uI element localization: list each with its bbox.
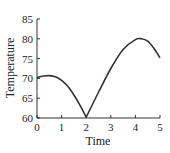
- y-tick-label: 65: [22, 92, 34, 104]
- x-tick-label: 2: [83, 121, 89, 133]
- x-tick-label: 1: [59, 121, 65, 133]
- y-tick-label: 70: [22, 72, 34, 84]
- y-axis-label: Temperature: [3, 38, 17, 98]
- y-tick-label: 85: [22, 13, 34, 25]
- x-tick-label: 3: [108, 121, 114, 133]
- line-chart: 606570758085 012345 Time Temperature: [0, 0, 170, 153]
- y-tick-label: 75: [22, 53, 34, 65]
- y-tick-label: 60: [22, 112, 34, 124]
- x-axis: 012345: [34, 115, 163, 133]
- x-tick-label: 4: [133, 121, 139, 133]
- x-axis-label: Time: [86, 134, 111, 148]
- temperature-line: [37, 38, 160, 117]
- y-tick-label: 80: [22, 33, 34, 45]
- x-tick-label: 5: [157, 121, 163, 133]
- y-axis: 606570758085: [22, 13, 40, 124]
- x-tick-label: 0: [34, 121, 40, 133]
